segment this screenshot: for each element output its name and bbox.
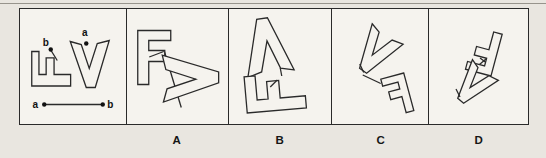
ab-a-dot — [42, 102, 46, 106]
ab-a-label: a — [32, 99, 38, 110]
f-shape — [380, 73, 413, 117]
connector-line — [362, 75, 380, 84]
page-rule-line — [0, 3, 546, 4]
option-label-a: A — [173, 134, 182, 146]
point-a-label: a — [82, 27, 88, 38]
v-shape — [70, 41, 109, 88]
v-shape — [240, 15, 294, 77]
point-a-dot — [84, 41, 88, 45]
option-panel-d[interactable] — [429, 9, 527, 124]
point-b-dot — [49, 47, 53, 51]
option-label-d: D — [475, 134, 484, 146]
connector-line — [280, 68, 282, 76]
point-b-label: b — [43, 37, 49, 48]
option-label-c: C — [377, 134, 386, 146]
f-shape — [32, 52, 71, 86]
option-label-b: B — [276, 134, 285, 146]
v-shape — [347, 23, 403, 81]
stem-panel: baab — [20, 9, 127, 124]
option-panel-c[interactable] — [332, 9, 430, 124]
question-strip: baab — [19, 8, 529, 125]
v-shape — [162, 55, 218, 102]
ab-b-label: b — [107, 99, 113, 110]
option-panel-a[interactable] — [127, 9, 230, 124]
f-shape — [244, 72, 306, 113]
ab-b-dot — [101, 102, 105, 106]
option-panel-b[interactable] — [229, 9, 332, 124]
